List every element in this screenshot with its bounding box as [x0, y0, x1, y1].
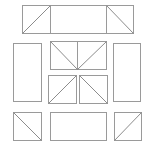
- top-strip-outline: [23, 6, 134, 34]
- center-upper-box: [51, 42, 107, 70]
- right-tall-box: [114, 44, 141, 102]
- diagram-canvas: [0, 0, 148, 147]
- bottom-center-box: [51, 113, 107, 141]
- center-lower-left-box: [49, 76, 77, 104]
- bottom-left-square: [14, 113, 42, 141]
- bottom-right-square: [115, 113, 142, 141]
- center-lower-right-box: [80, 76, 108, 104]
- center-upper-box-outline: [51, 42, 107, 70]
- left-tall-box: [14, 44, 42, 102]
- top-strip: [23, 6, 134, 34]
